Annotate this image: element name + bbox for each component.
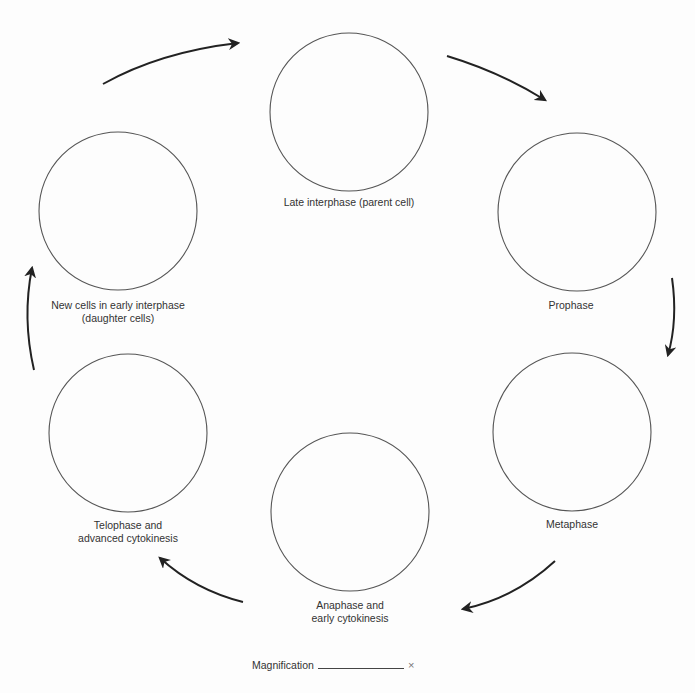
cell-cycle-diagram [0, 0, 695, 693]
stage-label-prophase: Prophase [549, 299, 594, 312]
cell-circle-telophase[interactable] [49, 354, 207, 512]
stage-label-line: Late interphase (parent cell) [284, 196, 415, 209]
cell-circle-early-interphase[interactable] [39, 132, 197, 290]
magnification-blank[interactable] [318, 658, 404, 669]
stage-label-telophase: Telophase andadvanced cytokinesis [78, 519, 178, 545]
arrow-anaphase-to-telophase [160, 558, 243, 602]
arrow-telophase-to-early-interphase [27, 268, 34, 370]
stage-label-late-interphase: Late interphase (parent cell) [284, 196, 415, 209]
magnification-label: Magnification [252, 659, 314, 671]
cell-cycle-worksheet: Late interphase (parent cell)ProphaseMet… [0, 0, 695, 693]
stage-label-line: Anaphase and [311, 599, 388, 612]
stage-label-anaphase: Anaphase andearly cytokinesis [311, 599, 388, 625]
stage-label-line: New cells in early interphase [51, 299, 185, 312]
stage-label-line: Telophase and [78, 519, 178, 532]
magnification-field: Magnification × [252, 658, 414, 671]
stage-label-line: advanced cytokinesis [78, 532, 178, 545]
cell-circle-anaphase[interactable] [271, 433, 429, 591]
arrow-metaphase-to-anaphase [463, 561, 555, 609]
arrow-prophase-to-metaphase [668, 278, 674, 355]
stage-label-line: Metaphase [546, 518, 598, 531]
arrow-early-interphase-to-late-interphase [103, 43, 238, 84]
times-symbol: × [408, 659, 414, 671]
stage-label-early-interphase: New cells in early interphase(daughter c… [51, 299, 185, 325]
arrow-late-interphase-to-prophase [447, 56, 545, 100]
cell-circle-late-interphase[interactable] [270, 33, 428, 191]
stage-label-metaphase: Metaphase [546, 518, 598, 531]
cell-circle-prophase[interactable] [498, 133, 656, 291]
stage-label-line: Prophase [549, 299, 594, 312]
stage-label-line: (daughter cells) [51, 312, 185, 325]
cell-circle-metaphase[interactable] [493, 353, 651, 511]
stage-label-line: early cytokinesis [311, 612, 388, 625]
